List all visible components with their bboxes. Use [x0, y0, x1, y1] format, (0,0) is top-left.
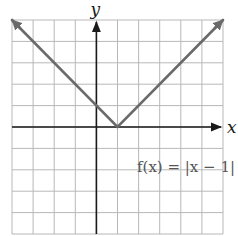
function-label: f(x) = |x − 1|: [137, 158, 235, 176]
x-axis-label: x: [227, 117, 237, 137]
right-arrow-icon: [215, 21, 222, 28]
left-arrow-icon: [13, 21, 20, 28]
y-axis-label: y: [89, 0, 100, 19]
graph-canvas: x y f(x) = |x − 1|: [0, 0, 238, 236]
